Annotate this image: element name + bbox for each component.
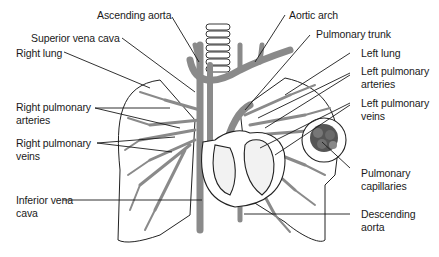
label-aortic-arch: Aortic arch [289, 9, 338, 21]
label-right-pulmonary-veins-1: Right pulmonary [16, 137, 91, 149]
label-right-pulmonary-veins-2: veins [16, 150, 40, 162]
label-pulmonary-capillaries-1: Pulmonary [361, 167, 410, 179]
label-pulmonary-trunk: Pulmonary trunk [316, 28, 391, 40]
label-left-pulmonary-arteries-1: Left pulmonary [361, 65, 429, 77]
label-inferior-vena-cava-2: cava [16, 207, 38, 219]
label-left-pulmonary-veins-1: Left pulmonary [361, 97, 429, 109]
label-ascending-aorta: Ascending aorta [97, 9, 171, 21]
label-superior-vena-cava: Superior vena cava [31, 32, 120, 44]
label-pulmonary-capillaries-2: capillaries [361, 180, 407, 192]
label-right-lung: Right lung [16, 47, 62, 59]
label-left-pulmonary-veins-2: veins [361, 110, 385, 122]
label-left-lung: Left lung [361, 47, 400, 59]
label-left-pulmonary-arteries-2: arteries [361, 78, 395, 90]
capillary-circle [302, 118, 346, 162]
label-right-pulmonary-arteries-2: arteries [16, 114, 50, 126]
label-inferior-vena-cava-1: Inferior vena [16, 194, 73, 206]
pulmonary-circulation-diagram: Ascending aorta Aortic arch Superior ven… [0, 0, 439, 257]
label-descending-aorta-1: Descending [361, 208, 415, 220]
label-descending-aorta-2: aorta [361, 221, 384, 233]
label-right-pulmonary-arteries-1: Right pulmonary [16, 101, 91, 113]
